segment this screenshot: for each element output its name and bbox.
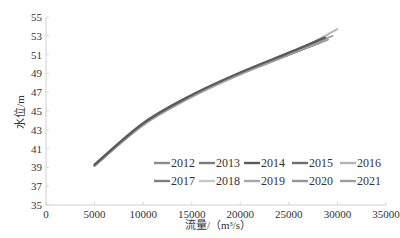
- series-line-2020: [95, 40, 328, 166]
- series-line-2013: [95, 43, 318, 165]
- series-line-2021: [95, 40, 328, 166]
- legend-label: 2020: [309, 174, 333, 188]
- series-line-2019: [95, 36, 333, 166]
- legend-label: 2017: [171, 174, 195, 188]
- y-tick-label: 39: [31, 161, 43, 173]
- legend-label: 2013: [216, 156, 240, 170]
- y-axis-title: 水位/m: [13, 95, 26, 129]
- legend-item-2017: 2017: [154, 174, 195, 188]
- y-tick-label: 37: [31, 180, 43, 192]
- legend-item-2014: 2014: [244, 156, 285, 170]
- legend-label: 2016: [357, 156, 381, 170]
- legend-item-2016: 2016: [340, 156, 381, 170]
- legend-item-2019: 2019: [244, 174, 285, 188]
- x-tick-label: 10000: [129, 208, 157, 220]
- legend-label: 2012: [171, 156, 195, 170]
- legend-item-2013: 2013: [199, 156, 240, 170]
- y-tick-label: 49: [31, 67, 43, 79]
- legend-label: 2021: [357, 174, 381, 188]
- x-tick-label: 35000: [372, 208, 400, 220]
- legend-item-2021: 2021: [340, 174, 381, 188]
- stage-discharge-chart: 3537394143454749515355 05000100001500020…: [0, 0, 400, 238]
- legend: 2012201320142015201620172018201920202021: [154, 156, 381, 188]
- legend-label: 2015: [309, 156, 333, 170]
- plot-area: 3537394143454749515355 05000100001500020…: [31, 11, 400, 220]
- legend-item-2018: 2018: [199, 174, 240, 188]
- x-axis-title: 流量/（m³/s）: [185, 218, 251, 231]
- y-tick-label: 41: [31, 143, 42, 155]
- x-tick-label: 5000: [84, 208, 107, 220]
- legend-item-2012: 2012: [154, 156, 195, 170]
- x-tick-label: 25000: [275, 208, 303, 220]
- series-line-2018: [95, 38, 328, 166]
- y-tick-label: 51: [31, 49, 42, 61]
- y-tick-label: 43: [31, 124, 43, 136]
- series-line-2012: [95, 41, 323, 165]
- series-line-2017: [95, 43, 318, 165]
- series-line-2015: [95, 42, 318, 165]
- y-tick-label: 35: [31, 199, 43, 211]
- legend-item-2020: 2020: [292, 174, 333, 188]
- series-line-2014: [95, 38, 325, 165]
- series-lines: [95, 29, 338, 165]
- x-tick-label: 0: [43, 208, 49, 220]
- y-tick-label: 45: [31, 105, 43, 117]
- y-tick-label: 47: [31, 86, 43, 98]
- legend-label: 2014: [261, 156, 285, 170]
- legend-item-2015: 2015: [292, 156, 333, 170]
- y-tick-label: 55: [31, 11, 43, 23]
- legend-label: 2019: [261, 174, 285, 188]
- legend-label: 2018: [216, 174, 240, 188]
- y-tick-label: 53: [31, 30, 43, 42]
- x-tick-label: 30000: [324, 208, 352, 220]
